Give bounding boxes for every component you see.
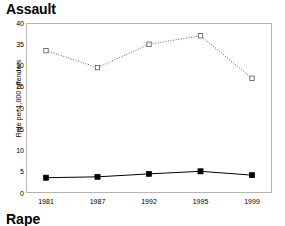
next-section-title: Rape — [6, 212, 40, 226]
data-point-lower-series-1999 — [249, 173, 254, 178]
data-point-lower-series-1995 — [198, 169, 203, 174]
y-tick-25: 25 — [2, 83, 24, 90]
y-tick-15: 15 — [2, 126, 24, 133]
y-tick-20: 20 — [2, 105, 24, 112]
plot-data-layer — [26, 23, 272, 193]
y-tick-40: 40 — [2, 20, 24, 27]
data-point-upper-series-1992 — [147, 42, 151, 46]
y-axis-tick-labels: 0510152025303540 — [0, 23, 24, 193]
y-tick-5: 5 — [2, 168, 24, 175]
x-axis-tick-labels: 19811987199219951999 — [26, 198, 272, 210]
y-tick-10: 10 — [2, 147, 24, 154]
data-point-upper-series-1987 — [95, 65, 99, 69]
data-point-upper-series-1981 — [44, 48, 48, 52]
y-tick-35: 35 — [2, 41, 24, 48]
data-point-lower-series-1981 — [43, 175, 48, 180]
y-tick-30: 30 — [2, 62, 24, 69]
data-point-lower-series-1992 — [146, 171, 151, 176]
data-point-upper-series-1995 — [198, 34, 202, 38]
series-lower-series — [43, 169, 254, 181]
series-upper-series — [44, 34, 254, 81]
assault-rate-chart-figure: Assault Rate per 1,000 offenders 0510152… — [0, 0, 285, 226]
y-tick-0: 0 — [2, 190, 24, 197]
page-title: Assault — [6, 2, 56, 17]
x-tick-1999: 1999 — [222, 198, 282, 206]
data-point-upper-series-1999 — [250, 76, 254, 80]
data-point-lower-series-1987 — [95, 174, 100, 179]
